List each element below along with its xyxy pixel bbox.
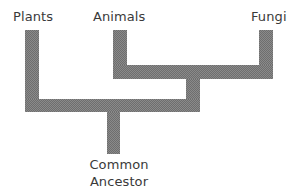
leaf-label-fungi: Fungi xyxy=(251,9,287,25)
branch-animals-fungi-horizontal xyxy=(113,65,273,79)
root-label-line1: Common xyxy=(84,157,154,173)
leaf-label-animals: Animals xyxy=(93,9,145,25)
root-label: Common Ancestor xyxy=(84,157,154,190)
branch-root-stem xyxy=(107,112,120,154)
branch-root-horizontal xyxy=(25,99,200,112)
leaf-label-plants: Plants xyxy=(13,9,53,25)
root-label-line2: Ancestor xyxy=(84,174,154,190)
